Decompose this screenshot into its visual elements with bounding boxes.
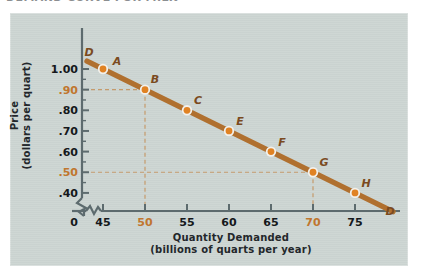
x-tick-label-45: 45 [95, 216, 110, 229]
point-label-A: A [113, 55, 122, 68]
point-label-E: E [236, 114, 244, 127]
x-tick-label-75: 75 [347, 216, 362, 229]
x-tick-label-50: 50 [137, 216, 152, 229]
x-tick-label-55: 55 [179, 216, 194, 229]
point-label-H: H [361, 176, 370, 189]
x-tick-label-70: 70 [305, 216, 320, 229]
y-tick-label-p60: .60 [59, 145, 79, 158]
y-tick-label-p80: .80 [59, 104, 79, 117]
y-tick-label-1p00: 1.00 [51, 63, 78, 76]
y-tick-label-p50: .50 [59, 166, 79, 179]
point-label-G: G [319, 156, 328, 169]
y-axis-title-main: Price [9, 101, 20, 130]
x-axis-title: Quantity Demanded (billions of quarts pe… [86, 232, 376, 255]
x-tick-label-65: 65 [263, 216, 278, 229]
curve-label-right: D [385, 204, 394, 217]
chart-text-overlay: Price (dollars per quart) Quantity Deman… [0, 0, 421, 279]
y-tick-label-p40: .40 [59, 186, 79, 199]
x-axis-title-main: Quantity Demanded [173, 232, 289, 243]
point-label-B: B [151, 72, 159, 85]
x-tick-label-60: 60 [221, 216, 236, 229]
x-axis-title-sub: (billions of quarts per year) [150, 244, 311, 255]
point-label-F: F [278, 135, 286, 148]
x-axis-origin-label: 0 [70, 216, 78, 229]
curve-label-left: D [84, 46, 93, 59]
point-label-C: C [194, 94, 202, 107]
y-tick-label-p70: .70 [59, 124, 79, 137]
y-axis-title: Price (dollars per quart) [9, 60, 32, 172]
y-tick-label-p90: .90 [59, 83, 79, 96]
y-axis-title-sub: (dollars per quart) [20, 61, 31, 169]
